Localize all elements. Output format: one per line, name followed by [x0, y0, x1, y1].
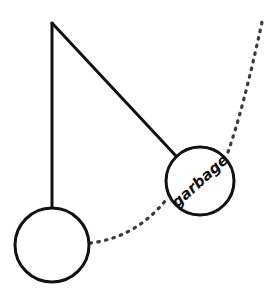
- diagram-canvas: garbage: [0, 0, 280, 298]
- pendulum-diagram: garbage: [0, 0, 280, 298]
- rest-position-bob-circle[interactable]: [15, 208, 89, 282]
